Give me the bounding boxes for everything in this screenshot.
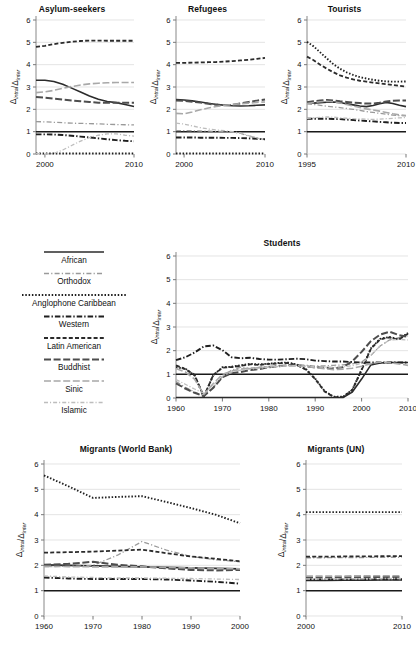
y-tick-label: 5 [34, 485, 38, 494]
x-tick-label: 1960 [167, 404, 185, 413]
y-axis-label: Δintra/Δinter [14, 523, 27, 558]
svg-text:Δintra/Δinter: Δintra/Δinter [14, 523, 27, 558]
series-line-latin-american [44, 550, 240, 562]
panel-migrants-un: Migrants (UN)012345620002010Δintra/Δinte… [256, 444, 416, 656]
y-tick-label: 3 [166, 83, 170, 92]
series-line-western [176, 345, 408, 362]
y-tick-label: 4 [166, 299, 170, 308]
legend-label-western: Western [59, 320, 90, 329]
y-tick-label: 0 [166, 150, 170, 159]
x-tick-label: 2010 [393, 622, 411, 631]
series-line-sinic [176, 102, 265, 114]
legend-label-islamic: Islamic [61, 406, 86, 415]
y-tick-label: 2 [26, 105, 30, 114]
plot-area: 012345620002010Δintra/Δinter [256, 444, 416, 656]
series-line-anglophone-caribbean [44, 475, 240, 523]
y-tick-label: 6 [166, 16, 170, 25]
y-tick-label: 2 [166, 105, 170, 114]
series-line-buddhist [306, 577, 402, 578]
series-line-latin-american [36, 41, 134, 47]
y-tick-label: 1 [297, 127, 301, 136]
y-tick-label: 4 [166, 60, 170, 69]
y-tick-label: 5 [297, 38, 301, 47]
legend-label-orthodox: Orthodox [57, 277, 91, 286]
y-tick-label: 3 [34, 536, 38, 545]
legend: AfricanOrthodoxAnglophone CaribbeanWeste… [0, 244, 148, 420]
panel-title: Migrants (World Bank) [2, 444, 250, 454]
y-tick-label: 3 [166, 323, 170, 332]
x-tick-label: 1990 [182, 622, 200, 631]
svg-text:Δintra/Δinter: Δintra/Δinter [148, 70, 161, 105]
x-tick-label: 2010 [397, 160, 415, 169]
y-tick-label: 4 [297, 60, 301, 69]
y-tick-label: 4 [296, 510, 300, 519]
y-tick-label: 0 [296, 612, 300, 621]
y-tick-label: 6 [297, 16, 301, 25]
plot-area: 012345620002010Δintra/Δinter [2, 4, 142, 190]
y-tick-label: 1 [166, 127, 170, 136]
y-axis-label: Δintra/Δinter [279, 70, 292, 105]
legend-label-buddhist: Buddhist [58, 363, 91, 372]
y-tick-label: 1 [166, 370, 170, 379]
legend-container: AfricanOrthodoxAnglophone CaribbeanWeste… [0, 244, 148, 420]
series-line-western [307, 119, 406, 123]
panel-students: Students0123456196019701980199020002010Δ… [148, 238, 416, 430]
y-tick-label: 5 [166, 275, 170, 284]
y-tick-label: 5 [26, 38, 30, 47]
y-tick-label: 6 [166, 252, 170, 261]
series-line-western [36, 134, 134, 141]
y-tick-label: 0 [166, 394, 170, 403]
y-axis-label: Δintra/Δinter [149, 310, 162, 345]
y-tick-label: 2 [166, 346, 170, 355]
panel-asylum-seekers: Asylum-seekers012345620002010Δintra/Δint… [2, 4, 142, 190]
series-line-buddhist [36, 97, 134, 103]
series-line-orthodox [36, 122, 134, 125]
x-tick-label: 2000 [36, 160, 54, 169]
y-tick-label: 3 [296, 536, 300, 545]
y-tick-label: 2 [296, 561, 300, 570]
y-tick-label: 3 [26, 83, 30, 92]
y-tick-label: 1 [26, 127, 30, 136]
panel-migrants-world-bank: Migrants (World Bank)0123456196019701980… [2, 444, 250, 656]
series-line-sinic [44, 566, 240, 569]
svg-text:Δintra/Δinter: Δintra/Δinter [8, 70, 21, 105]
series-line-sinic [36, 83, 134, 93]
y-tick-label: 1 [34, 586, 38, 595]
y-tick-label: 5 [296, 485, 300, 494]
plot-area: 012345619952010Δintra/Δinter [273, 4, 416, 190]
y-tick-label: 3 [297, 83, 301, 92]
y-axis-label: Δintra/Δinter [8, 70, 21, 105]
y-tick-label: 1 [296, 586, 300, 595]
series-line-latin-american [306, 556, 402, 557]
x-tick-label: 2010 [256, 160, 274, 169]
y-axis-label: Δintra/Δinter [276, 523, 289, 558]
y-tick-label: 0 [297, 150, 301, 159]
svg-text:Δintra/Δinter: Δintra/Δinter [279, 70, 292, 105]
legend-label-latin-american: Latin American [47, 342, 102, 351]
panel-title: Refugees [142, 4, 273, 14]
plot-area: 012345619601970198019902000Δintra/Δinter [2, 444, 250, 656]
series-line-western [176, 137, 265, 139]
y-tick-label: 0 [26, 150, 30, 159]
series-line-anglophone-caribbean [307, 42, 406, 82]
y-tick-label: 4 [34, 510, 38, 519]
svg-text:Δintra/Δinter: Δintra/Δinter [276, 523, 289, 558]
panel-refugees: Refugees012345620002010Δintra/Δinter [142, 4, 273, 190]
x-tick-label: 2010 [125, 160, 143, 169]
y-tick-label: 6 [26, 16, 30, 25]
x-tick-label: 1980 [260, 404, 278, 413]
series-line-latin-american [176, 58, 265, 63]
x-tick-label: 2000 [175, 160, 193, 169]
legend-label-sinic: Sinic [65, 385, 83, 394]
plot-area: 0123456196019701980199020002010Δintra/Δi… [148, 238, 416, 430]
x-tick-label: 2000 [353, 404, 371, 413]
panel-tourists: Tourists012345619952010Δintra/Δinter [273, 4, 416, 190]
plot-area: 012345620002010Δintra/Δinter [142, 4, 273, 190]
x-tick-label: 1995 [298, 160, 316, 169]
svg-text:Δintra/Δinter: Δintra/Δinter [149, 310, 162, 345]
y-tick-label: 2 [297, 105, 301, 114]
y-tick-label: 6 [34, 460, 38, 469]
legend-label-anglophone-caribbean: Anglophone Caribbean [32, 299, 116, 308]
y-tick-label: 4 [26, 60, 30, 69]
panel-title: Migrants (UN) [256, 444, 416, 454]
